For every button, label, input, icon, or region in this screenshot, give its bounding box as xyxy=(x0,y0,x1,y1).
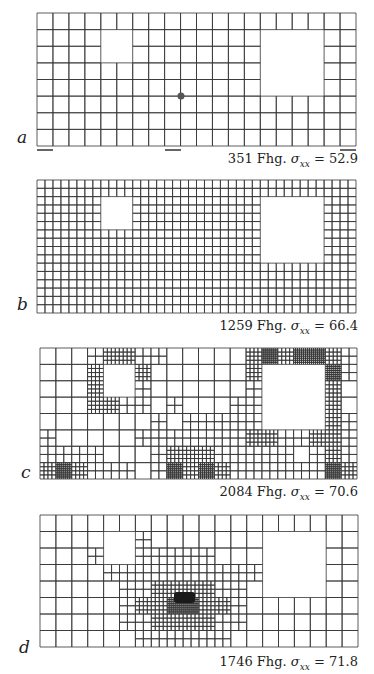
stress-value: 71.8 xyxy=(329,654,358,669)
equals: = xyxy=(314,654,325,669)
sigma-subscript: xx xyxy=(300,662,310,672)
panel-label-d: d xyxy=(19,637,30,657)
unit: Fhg. xyxy=(257,654,287,669)
mesh-elements xyxy=(40,515,358,647)
element-count: 1746 xyxy=(220,654,253,669)
mesh-d xyxy=(0,0,374,674)
dense-refinement-region xyxy=(174,592,195,603)
sigma-symbol: σ xyxy=(291,654,300,669)
caption-d: 1746 Fhg. σxx = 71.8 xyxy=(220,654,358,672)
